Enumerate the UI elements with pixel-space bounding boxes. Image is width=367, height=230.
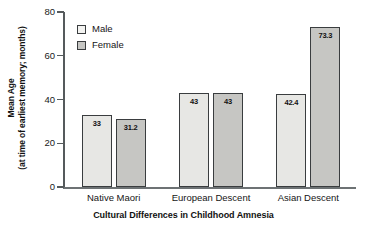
bar-female-native-maori: 31.2: [116, 119, 146, 187]
y-axis-tick-label: 0: [15, 182, 55, 192]
legend-swatch-female-icon: [77, 41, 86, 50]
y-axis-tick: [57, 99, 64, 100]
y-axis-tick: [57, 186, 64, 187]
bar-male-asian-descent: 42.4: [276, 94, 306, 187]
bar-value-label: 42.4: [277, 98, 305, 107]
bar-chart-figure: Mean Age (at time of earliest memory; mo…: [0, 0, 367, 230]
legend-label-female: Female: [92, 40, 124, 50]
y-axis-tick: [57, 55, 64, 56]
bar-female-asian-descent: 73.3: [310, 27, 340, 187]
x-axis-line: [63, 187, 356, 189]
legend-item-female: Female: [77, 38, 124, 52]
y-axis-tick-label: 60: [15, 51, 55, 61]
y-axis-tick: [57, 143, 64, 144]
bar-female-european-descent: 43: [213, 93, 243, 187]
x-axis-label-asian-descent: Asian Descent: [248, 192, 367, 203]
bar-male-native-maori: 33: [82, 115, 112, 187]
legend: Male Female: [77, 22, 124, 54]
legend-item-male: Male: [77, 22, 124, 36]
bar-value-label: 43: [180, 97, 208, 106]
y-axis-tick-label: 20: [15, 138, 55, 148]
bar-value-label: 31.2: [117, 123, 145, 132]
bar-value-label: 43: [214, 97, 242, 106]
bar-value-label: 73.3: [311, 31, 339, 40]
y-axis-tick-label: 80: [15, 7, 55, 17]
y-axis-tick: [57, 11, 64, 12]
legend-swatch-male-icon: [77, 25, 86, 34]
y-axis-tick-label: 40: [15, 95, 55, 105]
bar-value-label: 33: [83, 119, 111, 128]
x-axis-title: Cultural Differences in Childhood Amnesi…: [0, 210, 367, 220]
legend-label-male: Male: [92, 24, 113, 34]
bar-male-european-descent: 43: [179, 93, 209, 187]
